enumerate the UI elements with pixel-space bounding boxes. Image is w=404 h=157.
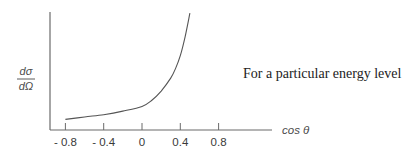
x-axis-ticks: - 0.8- 0.400.40.8: [54, 123, 227, 148]
x-tick-label: 0.4: [172, 136, 189, 148]
x-axis-label: cos θ: [282, 124, 310, 136]
x-tick-label: 0: [139, 136, 145, 148]
differential-cross-section-chart: - 0.8- 0.400.40.8 cos θ dσ dΩ For a part…: [0, 0, 404, 157]
y-axis-label: dσ dΩ: [17, 65, 35, 92]
y-label-numerator: dσ: [20, 65, 33, 77]
x-tick-label: 0.8: [211, 136, 227, 148]
y-label-denominator: dΩ: [19, 80, 34, 92]
energy-level-annotation: For a particular energy level: [243, 66, 401, 81]
x-tick-label: - 0.8: [54, 136, 77, 148]
cross-section-curve: [65, 13, 189, 119]
x-tick-label: - 0.4: [92, 136, 116, 148]
